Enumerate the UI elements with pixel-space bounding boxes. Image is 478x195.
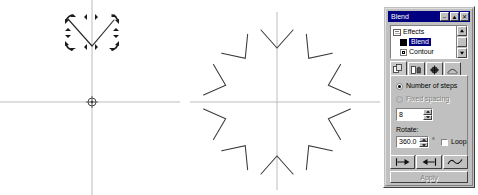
loop-checkbox[interactable] bbox=[441, 139, 448, 146]
apply-button[interactable]: Apply bbox=[390, 171, 468, 183]
blend-steps-icon bbox=[393, 64, 404, 74]
tab-steps[interactable] bbox=[390, 61, 407, 76]
effects-tree[interactable]: Effects Blend Contour bbox=[390, 25, 468, 59]
radio-number-of-steps[interactable] bbox=[396, 83, 403, 90]
tree-item-contour[interactable]: Contour bbox=[393, 47, 456, 57]
rotate-decrement-button[interactable] bbox=[419, 142, 428, 147]
loop-option[interactable]: Loop bbox=[441, 138, 467, 146]
titlebar-buttons: – ▲ ✕ bbox=[440, 12, 469, 21]
start-object-icon bbox=[395, 158, 410, 167]
blend-tab-strip bbox=[390, 61, 468, 76]
tab-acceleration[interactable] bbox=[426, 62, 443, 76]
tab-color[interactable] bbox=[408, 62, 425, 76]
maximize-icon: ▲ bbox=[451, 13, 458, 21]
blend-end-button[interactable] bbox=[416, 155, 441, 169]
blend-action-buttons bbox=[390, 155, 468, 169]
blend-docker: Blend – ▲ ✕ Effects Blend Conto bbox=[383, 6, 475, 188]
rotate-label: Rotate: bbox=[396, 126, 419, 134]
skew-handle-left bbox=[65, 28, 71, 38]
tab-path[interactable] bbox=[444, 62, 461, 76]
rollup-button[interactable]: – bbox=[440, 12, 449, 21]
close-button[interactable]: ✕ bbox=[460, 12, 469, 21]
scrollbar-thumb[interactable] bbox=[457, 37, 467, 47]
close-icon: ✕ bbox=[461, 13, 468, 21]
blend-start-button[interactable] bbox=[390, 155, 415, 169]
folder-icon bbox=[393, 29, 401, 36]
rotation-center-marker[interactable] bbox=[86, 96, 98, 108]
steps-spinner-buttons bbox=[423, 109, 432, 120]
effect-icon bbox=[400, 39, 407, 46]
drawing-canvas[interactable] bbox=[0, 0, 380, 195]
radio-fixed-spacing bbox=[396, 96, 403, 103]
node-map-icon bbox=[429, 65, 440, 75]
docker-titlebar[interactable]: Blend – ▲ ✕ bbox=[388, 11, 470, 22]
canvas-artwork bbox=[0, 0, 380, 195]
tree-body: Effects Blend Contour bbox=[391, 26, 456, 58]
effect-icon bbox=[400, 49, 407, 56]
rotate-value[interactable]: 360.0 bbox=[397, 137, 419, 147]
tree-scrollbar[interactable] bbox=[456, 26, 467, 58]
color-blend-icon bbox=[411, 65, 422, 75]
label-number-of-steps: Number of steps bbox=[406, 82, 457, 90]
steps-decrement-button[interactable] bbox=[423, 115, 432, 121]
scroll-up-icon[interactable] bbox=[457, 26, 467, 36]
tree-root-effects[interactable]: Effects bbox=[393, 27, 456, 37]
tree-root-label: Effects bbox=[403, 28, 424, 36]
end-object-icon bbox=[421, 158, 436, 167]
path-curve-icon bbox=[447, 158, 463, 167]
docker-title: Blend bbox=[389, 13, 440, 20]
tree-item-blend[interactable]: Blend bbox=[393, 37, 456, 47]
steps-value[interactable]: 8 bbox=[397, 109, 423, 120]
scroll-down-icon[interactable] bbox=[457, 48, 467, 58]
blend-path-button[interactable] bbox=[443, 155, 468, 169]
blend-path-icon bbox=[447, 65, 458, 75]
skew-handle-top bbox=[84, 14, 98, 20]
label-fixed-spacing: Fixed spacing bbox=[406, 95, 449, 103]
v-shape-original bbox=[68, 19, 114, 46]
rollup-icon: – bbox=[441, 13, 448, 21]
blend-options-panel: Number of steps Fixed spacing 8 Rotate: … bbox=[390, 75, 468, 156]
degree-symbol: ° bbox=[432, 137, 435, 145]
steps-spinner[interactable]: 8 bbox=[396, 108, 433, 121]
tree-item-contour-label: Contour bbox=[409, 48, 434, 56]
loop-label: Loop bbox=[451, 138, 467, 146]
rotate-spinner[interactable]: 360.0 bbox=[396, 136, 429, 148]
rotate-spinner-buttons bbox=[419, 137, 428, 147]
tree-item-blend-label: Blend bbox=[409, 38, 431, 46]
option-fixed-spacing: Fixed spacing bbox=[396, 95, 449, 103]
docker-inner-frame: Blend – ▲ ✕ Effects Blend Conto bbox=[385, 8, 473, 186]
option-number-of-steps[interactable]: Number of steps bbox=[396, 82, 457, 90]
skew-handle-right bbox=[113, 28, 119, 38]
maximize-button[interactable]: ▲ bbox=[450, 12, 459, 21]
